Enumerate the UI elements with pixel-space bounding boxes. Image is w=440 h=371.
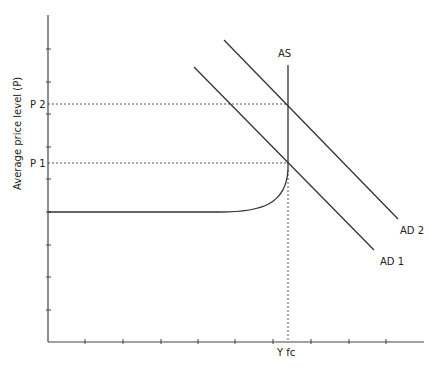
ad1-label: AD 1 <box>380 256 404 267</box>
ad1-curve <box>194 67 374 250</box>
p2-label: P 2 <box>30 99 46 110</box>
axes <box>48 15 424 342</box>
yfc-label: Y fc <box>276 347 295 358</box>
ad2-label: AD 2 <box>400 225 424 236</box>
as-curve <box>48 65 288 212</box>
p1-label: P 1 <box>30 158 46 169</box>
y-axis-label: Average price level (P) <box>12 77 23 190</box>
guide-lines <box>48 104 288 342</box>
ad-as-diagram: Average price level (P) P 2 P 1 AS AD 2 … <box>0 0 440 371</box>
as-label: AS <box>278 48 291 59</box>
ad2-curve <box>224 40 398 219</box>
